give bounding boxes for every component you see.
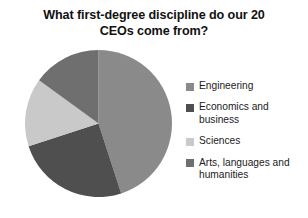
legend-item-label: Economics and business <box>199 101 306 126</box>
chart-title-line-1: What first-degree discipline do our 20 <box>14 8 294 24</box>
legend-item: Engineering <box>186 80 306 92</box>
legend-item-label: Sciences <box>199 135 240 147</box>
pie-slice-group <box>25 50 172 197</box>
legend-swatch-icon <box>186 159 194 167</box>
chart-title: What first-degree discipline do our 20 C… <box>14 8 294 39</box>
pie-chart-figure: What first-degree discipline do our 20 C… <box>0 0 308 218</box>
legend-swatch-icon <box>186 104 194 112</box>
pie-chart <box>25 50 172 197</box>
legend-item-label: Arts, languages and humanities <box>199 157 306 182</box>
legend-item: Economics and business <box>186 101 306 126</box>
chart-title-line-2: CEOs come from? <box>14 24 294 40</box>
legend-item-label: Engineering <box>199 80 253 92</box>
chart-legend: EngineeringEconomics and businessScience… <box>186 80 306 190</box>
legend-swatch-icon <box>186 138 194 146</box>
pie-chart-svg <box>25 50 172 197</box>
legend-item: Sciences <box>186 135 306 147</box>
legend-swatch-icon <box>186 83 194 91</box>
legend-item: Arts, languages and humanities <box>186 157 306 182</box>
